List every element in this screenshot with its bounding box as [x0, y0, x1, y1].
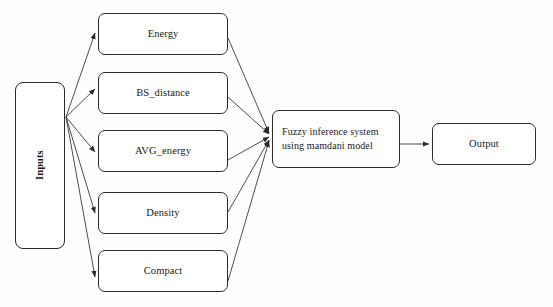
node-bs-distance[interactable]: BS_distance — [98, 72, 228, 114]
edge-inputs-to-avg-energy — [66, 117, 95, 152]
diagram-canvas: Inputs Energy BS_distance AVG_energy Den… — [0, 0, 553, 307]
node-avg-energy-label: AVG_energy — [135, 144, 191, 158]
edge-avg-energy-to-fuzzy — [228, 137, 269, 160]
node-compact[interactable]: Compact — [98, 250, 228, 292]
node-density-label: Density — [146, 206, 179, 220]
edge-energy-to-fuzzy — [228, 38, 269, 133]
node-energy-label: Energy — [148, 27, 179, 41]
edge-compact-to-fuzzy — [228, 141, 269, 281]
node-bs-distance-label: BS_distance — [136, 86, 190, 100]
edge-inputs-to-compact — [66, 117, 95, 277]
edge-inputs-to-bs-distance — [66, 89, 95, 117]
node-output[interactable]: Output — [432, 123, 536, 165]
node-avg-energy[interactable]: AVG_energy — [98, 130, 228, 172]
node-fuzzy-inference-system-label: Fuzzy inference system using mamdani mod… — [273, 125, 379, 154]
edge-bs-distance-to-fuzzy — [228, 97, 269, 134]
node-compact-label: Compact — [144, 264, 183, 278]
node-density[interactable]: Density — [98, 192, 228, 234]
node-inputs[interactable]: Inputs — [15, 82, 65, 249]
edge-density-to-fuzzy — [228, 140, 269, 212]
node-energy[interactable]: Energy — [98, 13, 228, 55]
node-fuzzy-inference-system[interactable]: Fuzzy inference system using mamdani mod… — [272, 110, 400, 168]
node-inputs-label: Inputs — [33, 151, 47, 181]
node-output-label: Output — [469, 137, 499, 151]
edge-inputs-to-energy — [66, 33, 95, 117]
